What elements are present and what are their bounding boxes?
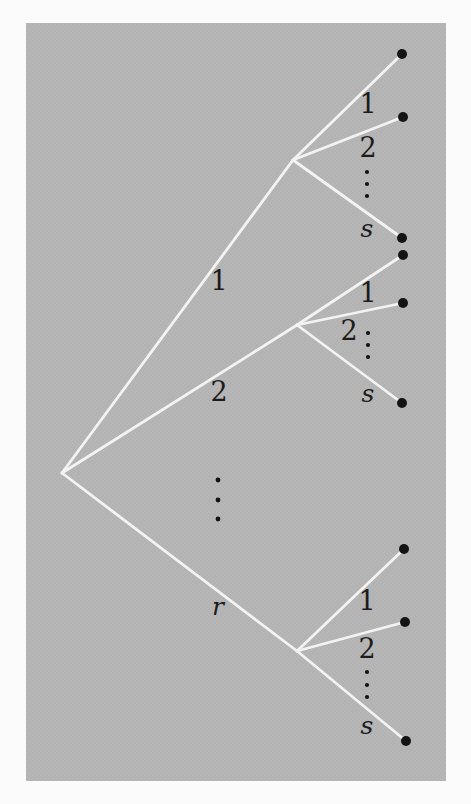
- figure-panel: [26, 23, 446, 781]
- ellipsis-dot: [365, 670, 369, 674]
- leaf-node: [398, 250, 408, 260]
- level2-branch-label-g1-s: s: [361, 214, 374, 243]
- ellipsis-dot: [365, 695, 369, 699]
- leaf-node: [397, 49, 407, 59]
- level2-branch-label-g2-2: 2: [340, 315, 357, 346]
- leaf-node: [397, 398, 407, 408]
- level2-branch-label-g2-1: 1: [359, 277, 376, 308]
- leaf-node: [398, 112, 408, 122]
- level2-branch-label-g1-2: 2: [359, 132, 376, 163]
- leaf-node: [399, 544, 409, 554]
- level2-branch-label-g2-s: s: [362, 379, 375, 408]
- tree-diagram: 1 2 r 1 2 s 1 2 s 1 2 s: [0, 0, 471, 804]
- ellipsis-dot: [366, 343, 370, 347]
- level2-branch-label-g3-s: s: [361, 711, 374, 740]
- level2-branch-label-g1-1: 1: [359, 88, 376, 119]
- ellipsis-dot: [216, 517, 221, 522]
- level2-branch-label-g3-2: 2: [358, 633, 375, 664]
- leaf-node: [400, 617, 410, 627]
- ellipsis-dot: [365, 194, 369, 198]
- level1-branch-label-2: 2: [210, 376, 227, 407]
- ellipsis-dot: [365, 170, 369, 174]
- ellipsis-dot: [366, 331, 370, 335]
- leaf-node: [398, 298, 408, 308]
- ellipsis-dot: [365, 182, 369, 186]
- level2-branch-label-g3-1: 1: [358, 585, 375, 616]
- level1-branch-label-r: r: [212, 592, 226, 621]
- ellipsis-dot: [365, 683, 369, 687]
- ellipsis-dot: [366, 355, 370, 359]
- leaf-node: [401, 736, 411, 746]
- figure-page: 1 2 r 1 2 s 1 2 s 1 2 s: [0, 0, 471, 804]
- ellipsis-dot: [216, 478, 221, 483]
- ellipsis-dot: [216, 498, 221, 503]
- leaf-node: [397, 233, 407, 243]
- level1-branch-label-1: 1: [210, 265, 227, 296]
